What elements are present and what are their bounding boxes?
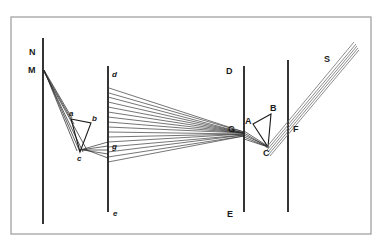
label-F: F <box>293 124 299 134</box>
label-M: M <box>28 65 36 75</box>
label-N: N <box>29 47 36 57</box>
figure-root: N M a b c d e g D E G A B C F S <box>0 0 384 252</box>
label-G: G <box>228 124 235 134</box>
label-D: D <box>226 66 233 76</box>
label-a: a <box>69 109 74 118</box>
label-e: e <box>113 209 118 218</box>
label-g: g <box>111 142 117 151</box>
label-C: C <box>263 148 270 158</box>
figure-background <box>0 0 384 252</box>
optical-ray-diagram: N M a b c d e g D E G A B C F S <box>0 0 384 252</box>
label-A: A <box>245 116 252 126</box>
label-B: B <box>270 103 277 113</box>
label-E: E <box>227 209 233 219</box>
label-c: c <box>77 154 82 163</box>
label-S: S <box>324 54 330 64</box>
label-b: b <box>92 114 97 123</box>
